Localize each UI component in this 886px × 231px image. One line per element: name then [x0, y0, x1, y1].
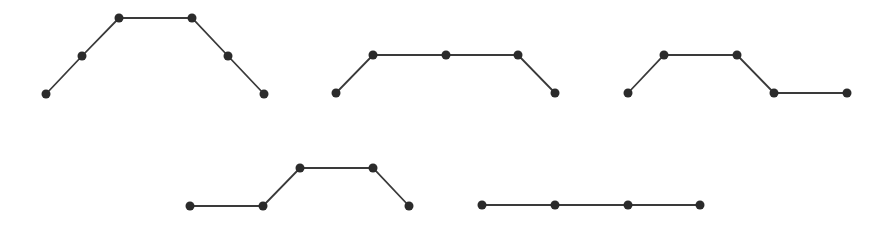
- vertex-node: [369, 51, 378, 60]
- vertex-node: [624, 89, 633, 98]
- vertex-node: [78, 52, 87, 61]
- vertex-node: [478, 201, 487, 210]
- vertex-node: [332, 89, 341, 98]
- vertex-node: [696, 201, 705, 210]
- vertex-node: [770, 89, 779, 98]
- vertex-node: [42, 90, 51, 99]
- polyline-5: [478, 201, 705, 210]
- vertex-node: [843, 89, 852, 98]
- vertex-node: [224, 52, 233, 61]
- polyline-edge: [628, 55, 847, 93]
- polyline-2: [332, 51, 560, 98]
- vertex-node: [551, 201, 560, 210]
- vertex-node: [405, 202, 414, 211]
- polyline-4: [186, 164, 414, 211]
- diagram-canvas: [0, 0, 886, 231]
- vertex-node: [733, 51, 742, 60]
- polyline-edge: [190, 168, 409, 206]
- vertex-node: [186, 202, 195, 211]
- vertex-node: [660, 51, 669, 60]
- vertex-node: [551, 89, 560, 98]
- vertex-node: [115, 14, 124, 23]
- vertex-node: [296, 164, 305, 173]
- polyline-1: [42, 14, 269, 99]
- vertex-node: [188, 14, 197, 23]
- vertex-node: [260, 90, 269, 99]
- vertex-node: [514, 51, 523, 60]
- vertex-node: [624, 201, 633, 210]
- polyline-edge: [336, 55, 555, 93]
- vertex-node: [259, 202, 268, 211]
- vertex-node: [369, 164, 378, 173]
- vertex-node: [442, 51, 451, 60]
- polyline-3: [624, 51, 852, 98]
